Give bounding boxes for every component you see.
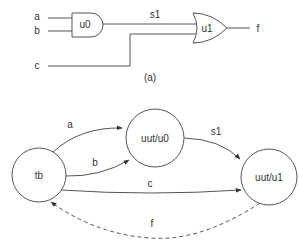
gate-label-u1: u1 (201, 23, 213, 34)
node-label-uut-u1: uut/u1 (255, 172, 283, 183)
diagram-canvas: a b c u0 s1 u1 f (a) a b s1 c f (0, 0, 299, 240)
edge-label-b: b (92, 157, 98, 168)
signal-label-s1: s1 (150, 9, 161, 20)
edge-c (61, 190, 241, 193)
edge-label-s1: s1 (211, 126, 222, 137)
signal-label-f: f (257, 23, 260, 34)
wire-c (48, 34, 196, 66)
caption-a: (a) (144, 72, 156, 83)
gate-label-u0: u0 (79, 19, 91, 30)
node-label-tb: tb (35, 170, 44, 181)
input-label-b: b (34, 25, 40, 36)
edge-label-c: c (148, 178, 153, 189)
edge-a (53, 128, 122, 152)
node-label-uut-u0: uut/u0 (141, 133, 169, 144)
logic-circuit: a b c u0 s1 u1 f (a) (34, 9, 259, 83)
input-label-c: c (35, 60, 40, 71)
edge-s1 (184, 138, 240, 159)
edge-label-f: f (151, 218, 154, 229)
signal-graph: a b s1 c f tb uut/u0 uut/u1 (12, 109, 297, 238)
edge-label-a: a (67, 119, 73, 130)
input-label-a: a (34, 11, 40, 22)
edge-f (51, 202, 260, 238)
